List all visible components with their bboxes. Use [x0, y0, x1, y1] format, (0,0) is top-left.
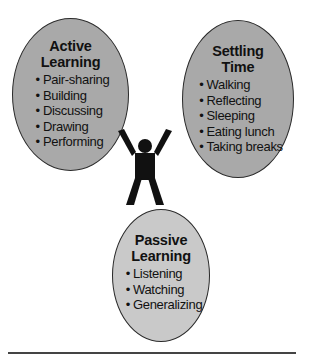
list-item: Listening [126, 266, 203, 282]
active-learning-title-line2: Learning [41, 54, 101, 70]
person-arms-raised-icon [110, 128, 180, 206]
passive-learning-title: Passive Learning [131, 232, 191, 264]
list-item: Watching [126, 282, 203, 298]
list-item: Pair-sharing [36, 72, 110, 88]
list-item: Sleeping [199, 108, 283, 124]
list-item: Building [36, 88, 110, 104]
active-learning-title: Active Learning [41, 38, 101, 70]
settling-time-title-line1: Settling [212, 43, 264, 59]
list-item: Walking [199, 77, 283, 93]
list-item: Performing [36, 134, 110, 150]
settling-time-title: Settling Time [212, 43, 264, 75]
passive-learning-list: Listening Watching Generalizing [126, 266, 203, 313]
divider-line [8, 352, 296, 354]
passive-learning-ellipse: Passive Learning Listening Watching Gene… [112, 209, 210, 342]
settling-time-ellipse: Settling Time Walking Reflecting Sleepin… [182, 20, 294, 178]
active-learning-list: Pair-sharing Building Discussing Drawing… [36, 72, 110, 150]
list-item: Eating lunch [199, 124, 283, 140]
settling-time-list: Walking Reflecting Sleeping Eating lunch… [199, 77, 283, 155]
list-item: Taking breaks [199, 139, 283, 155]
passive-learning-title-line2: Learning [131, 248, 191, 264]
active-learning-title-line1: Active [41, 38, 101, 54]
list-item: Reflecting [199, 93, 283, 109]
list-item: Drawing [36, 119, 110, 135]
list-item: Discussing [36, 103, 110, 119]
list-item: Generalizing [126, 297, 203, 313]
passive-learning-title-line1: Passive [131, 232, 191, 248]
settling-time-title-line2: Time [212, 59, 264, 75]
